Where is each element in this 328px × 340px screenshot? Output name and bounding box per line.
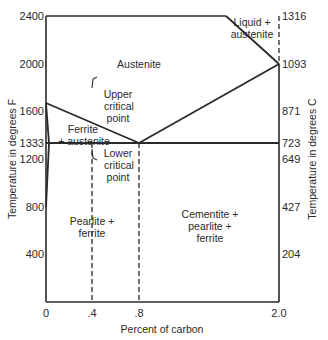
region-cementite-pearlite-ferrite: Cementite + xyxy=(182,208,239,220)
plot-frame xyxy=(46,16,279,302)
region-pearlite-ferrite: Pearlite + xyxy=(70,215,115,227)
region-ferrite-austenite: Ferrite xyxy=(68,123,98,135)
region-liquid-austenite: Liquid + xyxy=(233,16,270,28)
y-axis-title-left: Temperature in degrees F xyxy=(6,99,18,219)
y-tick-left: 2400 xyxy=(20,10,44,22)
region-cementite-pearlite-ferrite: pearlite + xyxy=(188,220,232,232)
y-tick-right: 649 xyxy=(282,153,300,165)
x-tick: .4 xyxy=(87,307,96,319)
y-tick-right: 204 xyxy=(282,248,300,260)
annotation-lower-critical: Lower xyxy=(104,147,133,159)
annotation-lower-critical: point xyxy=(107,171,130,183)
annotation-lower-critical: critical xyxy=(104,159,134,171)
y-tick-right: 871 xyxy=(282,105,300,117)
annotation-upper-critical: Upper xyxy=(104,88,133,100)
y-tick-left: 800 xyxy=(26,201,44,213)
y-tick-left: 1200 xyxy=(20,153,44,165)
region-pearlite-ferrite: ferrite xyxy=(79,227,106,239)
x-tick: .8 xyxy=(134,307,143,319)
annotation-upper-critical: point xyxy=(107,112,130,124)
x-axis-title: Percent of carbon xyxy=(121,323,204,335)
lower-critical-leader xyxy=(92,149,97,160)
iron-carbon-phase-diagram: 2400 2000 1600 1333 1200 800 400 1316 10… xyxy=(0,0,328,340)
acm-line xyxy=(139,64,279,143)
y-tick-left: 1600 xyxy=(20,105,44,117)
upper-critical-leader xyxy=(92,77,97,88)
y-axis-title-right: Temperature in degrees C xyxy=(306,98,318,220)
region-liquid-austenite: austenite xyxy=(231,28,274,40)
y-tick-left: 1333 xyxy=(20,137,44,149)
region-cementite-pearlite-ferrite: ferrite xyxy=(197,232,224,244)
y-tick-right: 1093 xyxy=(282,58,306,70)
y-tick-right: 723 xyxy=(282,137,300,149)
x-tick: 2.0 xyxy=(271,307,286,319)
y-tick-right: 1316 xyxy=(282,10,306,22)
y-tick-left: 400 xyxy=(26,248,44,260)
y-tick-left: 2000 xyxy=(20,58,44,70)
y-tick-right: 427 xyxy=(282,201,300,213)
annotation-upper-critical: critical xyxy=(104,100,134,112)
region-ferrite-austenite: + austenite xyxy=(58,135,110,147)
x-tick: 0 xyxy=(43,307,49,319)
region-austenite: Austenite xyxy=(117,58,161,70)
